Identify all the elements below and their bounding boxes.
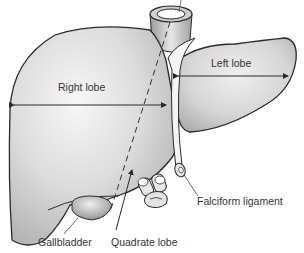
liver-illustration [0,0,304,253]
falciform-ligament-leader [184,175,198,196]
liver-diagram: Right lobe Left lobe Gallbladder Quadrat… [0,0,304,253]
gallbladder-leader [64,218,78,234]
label-right-lobe: Right lobe [58,82,105,93]
left-lobe [178,38,296,132]
label-gallbladder: Gallbladder [38,237,92,248]
label-left-lobe: Left lobe [211,58,251,69]
label-falciform-ligament: Falciform ligament [197,196,283,207]
gallbladder [72,196,112,220]
label-quadrate-lobe: Quadrate lobe [111,237,178,248]
